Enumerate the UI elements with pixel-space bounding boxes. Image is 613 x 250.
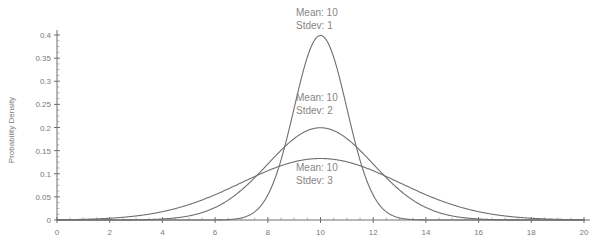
y-axis-tick-label: 0.35 <box>35 54 51 63</box>
annotation-mean-label: Mean: 10 <box>296 92 338 103</box>
x-axis-tick-label: 16 <box>474 228 483 237</box>
y-axis-tick-label: 0 <box>47 216 52 225</box>
x-axis-tick-label: 18 <box>527 228 536 237</box>
y-axis-title: Probability Density <box>7 97 16 163</box>
x-axis-tick-label: 4 <box>160 228 165 237</box>
annotation-stdev-3: Mean: 10Stdev: 3 <box>296 162 338 186</box>
annotation-mean-label: Mean: 10 <box>296 162 338 173</box>
annotation-mean-label: Mean: 10 <box>296 7 338 18</box>
x-axis-tick-label: 8 <box>266 228 271 237</box>
x-axis-tick-label: 20 <box>580 228 589 237</box>
annotation-stdev-1: Mean: 10Stdev: 1 <box>296 7 338 31</box>
y-axis-tick-label: 0.1 <box>40 170 52 179</box>
distribution-curves <box>57 35 584 220</box>
x-axis-tick-label: 10 <box>316 228 325 237</box>
annotation-stdev-label: Stdev: 2 <box>296 105 333 116</box>
annotation-stdev-2: Mean: 10Stdev: 2 <box>296 92 338 116</box>
x-axis-tick-label: 2 <box>107 228 112 237</box>
y-axis-tick-label: 0.3 <box>40 77 52 86</box>
probability-density-chart: 02468101214161820 00.050.10.150.20.250.3… <box>0 0 613 250</box>
chart-canvas: 02468101214161820 00.050.10.150.20.250.3… <box>0 0 613 250</box>
annotation-stdev-label: Stdev: 1 <box>296 20 333 31</box>
distribution-curve <box>57 128 584 220</box>
x-axis-tick-labels: 02468101214161820 <box>55 228 589 237</box>
x-axis-tick-label: 12 <box>369 228 378 237</box>
annotation-stdev-label: Stdev: 3 <box>296 175 333 186</box>
x-axis-tick-label: 6 <box>213 228 218 237</box>
y-axis-tick-label: 0.05 <box>35 193 51 202</box>
y-axis-tick-label: 0.15 <box>35 147 51 156</box>
y-axis-tick-labels: 00.050.10.150.20.250.30.350.4 <box>35 31 51 225</box>
y-axis-tick-label: 0.25 <box>35 100 51 109</box>
x-axis-tick-label: 14 <box>421 228 430 237</box>
x-axis-tick-label: 0 <box>55 228 60 237</box>
y-axis-tick-label: 0.2 <box>40 124 52 133</box>
y-axis-tick-label: 0.4 <box>40 31 52 40</box>
